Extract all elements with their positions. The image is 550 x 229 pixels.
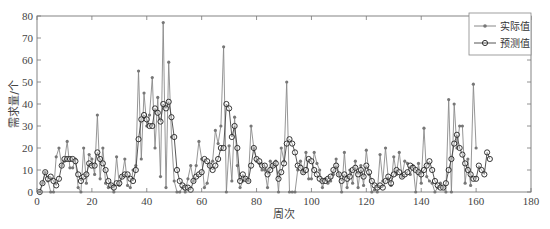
data-point [403,160,406,163]
legend: 实际值 预测值 [469,13,531,55]
data-point [447,98,450,101]
y-tick-label: 60 [22,54,34,66]
data-point [273,161,278,166]
data-point [73,159,78,164]
data-point [68,166,71,169]
data-point [336,172,341,177]
data-point [484,150,489,155]
data-point [162,21,165,24]
data-point [472,83,475,86]
data-point [463,161,468,166]
data-point [321,186,324,189]
data-point [446,167,451,172]
data-point [101,146,104,149]
data-point [189,164,192,167]
data-point [100,161,105,166]
data-point [151,76,154,79]
data-point [425,175,428,178]
data-point [457,145,462,150]
data-point [246,178,251,183]
data-point [269,160,272,163]
data-point [133,167,138,172]
data-point [428,179,431,182]
data-point [309,159,314,164]
legend-label-actual: 实际值 [500,20,530,32]
data-point [461,124,464,127]
data-point [307,177,310,180]
data-point [76,172,81,177]
data-point [260,168,263,171]
data-point [103,167,108,172]
data-point [95,150,100,155]
y-tick-label: 20 [22,142,34,154]
data-point [217,142,220,145]
data-point [347,174,352,179]
data-point [357,186,360,189]
data-point [40,181,45,186]
data-point [362,184,365,187]
data-point [71,166,74,169]
data-point [452,141,457,146]
data-point [292,150,297,155]
data-point [117,181,122,186]
data-point [427,159,432,164]
data-point [315,162,318,165]
data-point [155,110,160,115]
data-point [230,179,233,182]
data-point [206,182,209,185]
data-point [169,115,174,120]
data-point [249,124,252,127]
data-point [346,186,349,189]
data-point [466,157,469,160]
data-point [248,163,253,168]
data-point [219,124,222,127]
data-point [398,151,401,154]
data-point [443,181,448,186]
data-point [96,113,99,116]
data-point [487,156,492,161]
data-point [115,155,118,158]
data-point [454,132,459,137]
data-point [279,170,284,175]
y-tick-label: 50 [22,76,34,88]
data-point [174,167,179,172]
x-tick-label: 0 [34,195,40,207]
data-point [56,176,61,181]
demand-forecast-chart: 0102030405060708002040608010012014016018… [0,0,550,229]
x-tick-label: 60 [196,195,208,207]
data-point [77,186,80,189]
data-point [449,156,454,161]
x-tick-label: 120 [358,195,375,207]
data-point [142,91,145,94]
data-point [351,182,354,185]
data-point [364,163,369,168]
data-point [475,146,478,149]
data-point [229,134,234,139]
data-point [365,149,368,152]
data-point [213,163,218,168]
data-point [460,152,465,157]
y-tick-label: 40 [22,98,34,110]
data-point [92,163,97,168]
data-point [57,146,60,149]
data-point [137,69,140,72]
legend-label-predicted: 预测值 [500,37,530,49]
data-point [167,61,170,64]
data-point [93,173,96,176]
data-point [214,129,217,132]
y-tick-label: 30 [22,120,34,132]
data-point [232,123,237,128]
data-point [164,186,167,189]
data-point [334,163,339,168]
data-point [343,151,346,154]
dot-marker-icon [483,24,487,28]
data-point [339,178,344,183]
data-point [66,140,69,143]
data-point [469,184,472,187]
data-point [422,127,425,130]
y-tick-label: 70 [22,32,34,44]
data-point [303,167,308,172]
data-point [304,151,307,154]
data-point [129,186,132,189]
data-point [84,172,89,177]
